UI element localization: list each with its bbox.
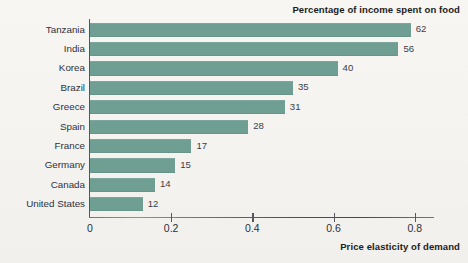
x-tick-label: 0.6 [326,222,341,234]
x-axis-line [89,217,434,218]
category-label: Spain [1,120,85,134]
bar [90,139,191,153]
bar-value-label: 35 [298,81,309,92]
bar [90,61,338,75]
chart-title: Percentage of income spent on food [292,4,460,15]
bar-row: 17 [90,136,435,155]
bar-value-label: 40 [343,62,354,73]
x-tick-mark [171,213,172,222]
bar [90,178,155,192]
bar [90,81,293,95]
category-label: Brazil [1,81,85,95]
category-label: France [1,139,85,153]
category-label: United States [1,197,85,211]
plot-area: 62564035312817151412 [90,20,435,216]
bar-value-label: 31 [290,101,301,112]
x-tick-mark [252,213,253,222]
category-label: Greece [1,100,85,114]
bar-value-label: 28 [253,120,264,131]
bar-value-label: 17 [196,140,207,151]
bar-value-label: 56 [403,43,414,54]
bar [90,23,411,37]
category-label: India [1,42,85,56]
bar [90,120,248,134]
bar-row: 35 [90,78,435,97]
bar-value-label: 14 [160,178,171,189]
bar-value-label: 12 [148,198,159,209]
bar-row: 40 [90,59,435,78]
x-axis-title: Price elasticity of demand [340,241,460,252]
bar [90,197,143,211]
y-axis-category-labels: TanzaniaIndiaKoreaBrazilGreeceSpainFranc… [0,20,85,216]
bar [90,158,175,172]
x-tick-label: 0.4 [245,222,260,234]
chart-figure: Percentage of income spent on food Tanza… [0,0,468,263]
x-tick-label: 0.2 [164,222,179,234]
bar-row: 12 [90,195,435,214]
bar-row: 62 [90,20,435,39]
category-label: Korea [1,61,85,75]
category-label: Tanzania [1,23,85,37]
bar-row: 56 [90,39,435,58]
bar-row: 15 [90,156,435,175]
bar [90,42,398,56]
category-label: Germany [1,158,85,172]
x-tick-mark [415,213,416,222]
bar-value-label: 62 [416,23,427,34]
category-label: Canada [1,178,85,192]
x-tick-label: 0.8 [407,222,422,234]
bar-value-label: 15 [180,159,191,170]
bar [90,100,285,114]
bar-row: 31 [90,98,435,117]
x-tick-mark [334,213,335,222]
bar-row: 28 [90,117,435,136]
bar-row: 14 [90,175,435,194]
x-tick-label: 0 [87,222,93,234]
